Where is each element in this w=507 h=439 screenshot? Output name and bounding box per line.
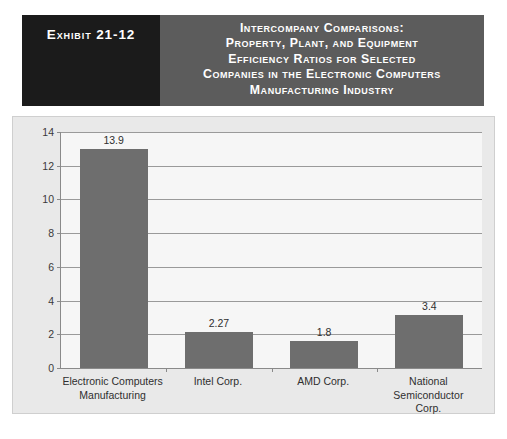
bars-layer: 13.92.271.83.4	[61, 132, 482, 368]
x-axis-category-label-line: Manufacturing	[60, 389, 165, 403]
bar-value-label: 3.4	[422, 300, 437, 312]
x-axis-tick	[166, 368, 167, 372]
bar[interactable]	[80, 149, 148, 368]
exhibit-number-label: Exhibit 21-12	[47, 27, 135, 42]
x-axis-category-labels: Electronic ComputersManufacturingIntel C…	[60, 375, 482, 411]
bar-value-label: 13.9	[103, 134, 123, 146]
x-axis-category-label: Intel Corp.	[165, 375, 270, 389]
y-axis-tick-label: 6	[48, 261, 54, 273]
x-axis-category-label-line: Intel Corp.	[165, 375, 270, 389]
x-axis-tick	[272, 368, 273, 372]
y-axis-tick-label: 10	[42, 193, 54, 205]
bar[interactable]	[395, 315, 463, 368]
x-axis-category-label: Electronic ComputersManufacturing	[60, 375, 165, 402]
x-axis-tick	[377, 368, 378, 372]
exhibit-header: Exhibit 21-12 Intercompany Comparisons: …	[22, 15, 484, 106]
y-axis-tick-label: 8	[48, 227, 54, 239]
bar-chart-plot-area: 02468101214 13.92.271.83.4	[60, 132, 482, 369]
chart-panel: 02468101214 13.92.271.83.4 Electronic Co…	[12, 116, 495, 414]
x-axis-category-label-line: AMD Corp.	[271, 375, 376, 389]
bar-value-label: 2.27	[209, 317, 229, 329]
exhibit-title-line-3: Efficiency Ratios for Selected	[228, 52, 415, 68]
bar-slot: 1.8	[272, 132, 377, 368]
y-axis-tick	[57, 368, 61, 369]
x-axis-category-label: AMD Corp.	[271, 375, 376, 389]
bar-value-label: 1.8	[317, 326, 332, 338]
exhibit-title-line-1: Intercompany Comparisons:	[240, 21, 404, 37]
y-axis-tick-label: 4	[48, 295, 54, 307]
y-axis-tick-label: 14	[42, 126, 54, 138]
y-axis-tick-label: 2	[48, 328, 54, 340]
y-axis-tick-label: 0	[48, 362, 54, 374]
x-axis-category-label-line: Corp.	[376, 402, 481, 416]
y-axis-tick-label: 12	[42, 160, 54, 172]
bar-slot: 2.27	[166, 132, 271, 368]
exhibit-title-line-5: Manufacturing Industry	[250, 83, 394, 99]
bar[interactable]	[290, 341, 358, 368]
bar[interactable]	[185, 332, 253, 368]
x-axis-category-label: National SemiconductorCorp.	[376, 375, 481, 416]
bar-slot: 3.4	[377, 132, 482, 368]
exhibit-title-block: Intercompany Comparisons: Property, Plan…	[160, 15, 484, 106]
bar-slot: 13.9	[61, 132, 166, 368]
exhibit-number-block: Exhibit 21-12	[22, 15, 160, 106]
exhibit-title-line-4: Companies in the Electronic Computers	[203, 67, 441, 83]
x-axis-category-label-line: National Semiconductor	[376, 375, 481, 402]
exhibit-title-line-2: Property, Plant, and Equipment	[226, 36, 419, 52]
x-axis-category-label-line: Electronic Computers	[60, 375, 165, 389]
